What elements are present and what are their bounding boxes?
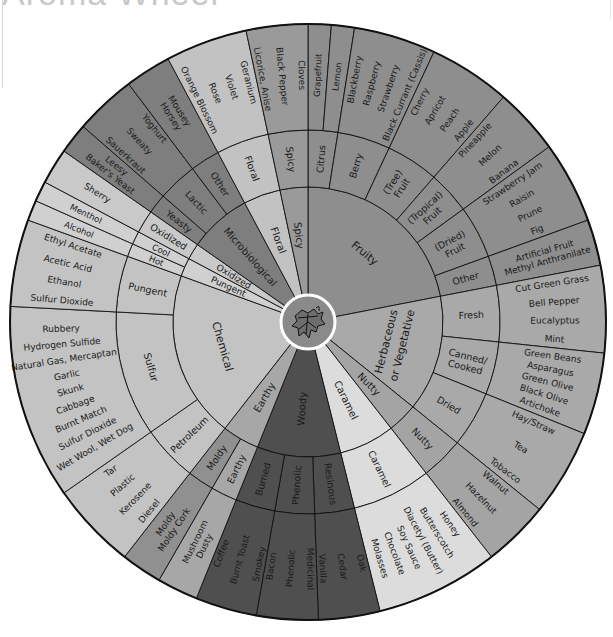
tier3-label: Grapefruit [312,53,324,98]
tier3-label-text: Grapefruit [312,53,324,98]
tier3-label-text: Rubbery [42,323,80,334]
tier3-label-text: Medicinal [305,548,315,591]
tier3-label: Vanilla [317,553,329,583]
tier3-label-text: Cloves [296,60,307,90]
wheel-hub[interactable] [281,295,335,349]
tier3-label: Eucalyptus [530,315,580,325]
aroma-wheel: FruityHerbaceousor VegetativeNuttyCarame… [0,0,613,637]
tier2-label: Fresh [458,309,484,321]
tier3-label-text: Mint [544,333,565,344]
tier3-label: Mint [544,333,565,344]
tier2-label-text: Citrus [314,145,327,174]
tier3-label-text: Vanilla [317,553,329,583]
tier3-label-text: Eucalyptus [530,315,580,325]
tier2-label-text: Fresh [458,309,484,321]
tier2-label: Citrus [314,145,327,174]
tier3-label: Cloves [296,60,307,90]
tier3-label: Medicinal [305,548,315,591]
tier3-label: Rubbery [42,323,80,334]
